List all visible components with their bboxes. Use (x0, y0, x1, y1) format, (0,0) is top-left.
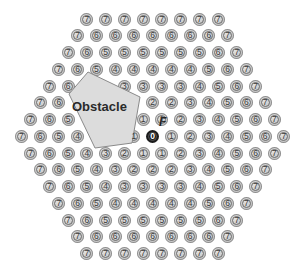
cell-value: 6 (225, 198, 230, 208)
cell-value: 6 (75, 198, 80, 208)
cell-value: 2 (178, 114, 183, 124)
cell-value: 2 (150, 97, 155, 107)
cell-value: 5 (75, 164, 80, 174)
cell-value: 7 (253, 81, 258, 91)
cell-value: 6 (206, 231, 211, 241)
cell-value: 5 (94, 198, 99, 208)
cell-value: 4 (188, 64, 193, 74)
cell-value: 6 (56, 164, 61, 174)
cell-value: 3 (188, 164, 193, 174)
cell-value: 7 (28, 148, 33, 158)
cell-value: 5 (66, 148, 71, 158)
cell-value: 4 (94, 164, 99, 174)
cell-value: 6 (263, 131, 268, 141)
cell-value: 5 (244, 131, 249, 141)
cell-value: 5 (197, 47, 202, 57)
cell-value: 4 (85, 148, 90, 158)
cell-value: 3 (178, 181, 183, 191)
cell-value: 5 (122, 47, 127, 57)
cell-value: 6 (47, 114, 52, 124)
cell-value: 4 (113, 64, 118, 74)
cell-value: 7 (253, 181, 258, 191)
cell-value: 7 (225, 231, 230, 241)
cell-value: 2 (169, 97, 174, 107)
cell-value: 6 (188, 231, 193, 241)
cell-value: 6 (216, 47, 221, 57)
cell-value: 7 (56, 64, 61, 74)
cell-value: 7 (244, 198, 249, 208)
cell-value: 5 (216, 181, 221, 191)
cell-value: 4 (188, 198, 193, 208)
cell-value: 6 (253, 148, 258, 158)
cell-value: 6 (113, 30, 118, 40)
cell-value: 5 (178, 47, 183, 57)
cell-value: 4 (216, 114, 221, 124)
cell-value: 7 (75, 231, 80, 241)
cell-value: 7 (19, 131, 24, 141)
cell-value: 6 (225, 64, 230, 74)
cell-value: 6 (244, 97, 249, 107)
cell-value: 5 (56, 131, 61, 141)
cell-value: 7 (38, 164, 43, 174)
cell-value: 7 (85, 14, 90, 24)
cell-value: 0 (150, 131, 155, 141)
cell-value: 6 (94, 30, 99, 40)
cell-value: 7 (38, 97, 43, 107)
cell-value: 4 (225, 131, 230, 141)
cell-value: 6 (150, 231, 155, 241)
cell-value: 7 (47, 181, 52, 191)
cell-value: 5 (225, 164, 230, 174)
cell-value: 7 (160, 248, 165, 258)
cell-value: 6 (253, 114, 258, 124)
cell-value: 7 (66, 47, 71, 57)
cell-value: 6 (206, 30, 211, 40)
cell-value: 1 (141, 148, 146, 158)
cell-value: 7 (225, 30, 230, 40)
cell-value: 3 (122, 181, 127, 191)
cell-value: 7 (28, 114, 33, 124)
cell-value: 7 (263, 97, 268, 107)
cell-value: 7 (281, 131, 286, 141)
cell-value: 6 (235, 181, 240, 191)
cell-value: 4 (197, 81, 202, 91)
cell-value: 6 (235, 81, 240, 91)
cell-value: 7 (263, 164, 268, 174)
cell-value: 5 (206, 64, 211, 74)
cell-value: 4 (169, 64, 174, 74)
cell-value: 4 (113, 198, 118, 208)
cell-value: 5 (141, 215, 146, 225)
cell-value: 6 (131, 231, 136, 241)
cell-value: 5 (197, 215, 202, 225)
cell-value: 5 (160, 47, 165, 57)
cell-value: 7 (141, 248, 146, 258)
obstacle-label: Obstacle (72, 99, 127, 114)
cell-value: 7 (141, 14, 146, 24)
cell-value: 3 (178, 81, 183, 91)
cell-value: 2 (122, 148, 127, 158)
cell-value: 7 (75, 30, 80, 40)
cell-value: 5 (103, 47, 108, 57)
cell-value: 7 (103, 248, 108, 258)
cell-value: 4 (169, 198, 174, 208)
cell-value: 5 (206, 198, 211, 208)
cell-value: 2 (131, 164, 136, 174)
cell-value: 6 (85, 215, 90, 225)
cell-value: 5 (160, 215, 165, 225)
cell-value: 5 (235, 114, 240, 124)
cell-value: 4 (75, 131, 80, 141)
cell-value: 6 (66, 81, 71, 91)
cell-value: 2 (150, 164, 155, 174)
cell-value: 3 (113, 164, 118, 174)
cell-value: 6 (56, 97, 61, 107)
cell-value: 4 (103, 181, 108, 191)
cell-value: 4 (206, 97, 211, 107)
cell-value: 5 (85, 181, 90, 191)
cell-value: 6 (150, 30, 155, 40)
cell-value: 6 (169, 231, 174, 241)
cell-value: 7 (122, 14, 127, 24)
cell-value: 3 (122, 81, 127, 91)
cell-value: 5 (66, 114, 71, 124)
cell-value: 7 (85, 248, 90, 258)
cell-value: 7 (66, 215, 71, 225)
cell-value: 5 (122, 215, 127, 225)
